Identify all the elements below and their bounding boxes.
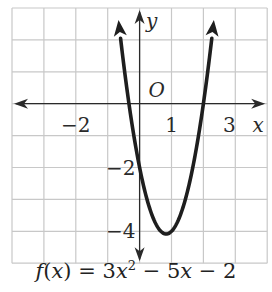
- caption-paren-open: (: [43, 259, 51, 283]
- caption-paren-close: ): [63, 259, 71, 283]
- origin-label: O: [148, 78, 164, 102]
- function-caption: f(x) = 3x2 − 5x − 2: [0, 258, 272, 283]
- caption-x-linear: x: [180, 259, 192, 283]
- caption-equals: = 3: [72, 259, 116, 283]
- caption-x: x: [52, 259, 64, 283]
- caption-x-squared: x: [116, 259, 128, 283]
- y-tick-label: −4: [106, 219, 135, 243]
- axis-labels: −213−2−4xyO: [61, 9, 264, 243]
- caption-minus-2: − 2: [192, 259, 236, 283]
- x-tick-label: 1: [165, 113, 178, 137]
- x-axis-label: x: [253, 113, 264, 137]
- y-axis-label: y: [145, 9, 158, 33]
- parabola-graph: −213−2−4xyO: [0, 0, 272, 292]
- caption-exponent: 2: [128, 258, 136, 273]
- x-tick-label: −2: [61, 113, 90, 137]
- y-tick-label: −2: [106, 156, 135, 180]
- x-tick-label: 3: [223, 113, 236, 137]
- caption-minus-5: − 5: [136, 259, 180, 283]
